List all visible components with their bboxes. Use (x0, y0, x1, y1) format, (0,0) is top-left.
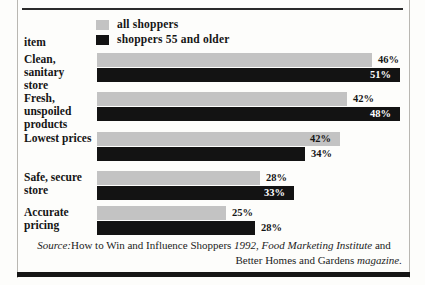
bar-group-label-line-1: Accurate (24, 206, 98, 219)
legend-label-all-shoppers: all shoppers (117, 17, 179, 32)
bar-value-label: 28% (266, 171, 287, 185)
legend-item-seniors: shoppers 55 and older (96, 32, 230, 47)
bar-value-label: 33% (264, 186, 285, 200)
bar-group-label-line-2: store (24, 184, 98, 197)
bar-value-label: 28% (261, 221, 282, 235)
bar-group-label-line-1: Safe, secure (24, 171, 98, 184)
bar-group-label-line-1: Fresh, unspoiled (24, 92, 98, 118)
bar-value-label: 42% (353, 92, 374, 106)
bar-group-label-line-2: pricing (24, 219, 98, 232)
frame-right-border (409, 0, 410, 278)
source-prefix: Source: (37, 239, 71, 251)
axis-heading-item: item (24, 36, 46, 48)
bar-seniors (97, 147, 305, 161)
bar-group-label-line-1: Clean, sanitary (24, 53, 98, 79)
bar-all-shoppers (97, 92, 347, 106)
bar-value-label: 48% (370, 107, 391, 121)
bar-seniors (97, 221, 255, 235)
bar-group-label: Clean, sanitarystore (24, 53, 98, 92)
bar-seniors (97, 107, 400, 121)
bar-all-shoppers (97, 171, 260, 185)
bar-value-label: 42% (310, 132, 331, 146)
bar-all-shoppers (97, 53, 372, 67)
source-note: Source:How to Win and Influence Shoppers… (26, 238, 402, 268)
bar-value-label: 34% (311, 147, 332, 161)
bar-group-label: Lowest prices (24, 132, 98, 145)
frame-bottom-rule (17, 272, 410, 277)
bar-chart-figure: all shoppers shoppers 55 and older item … (0, 0, 425, 285)
legend-swatch-all-shoppers (96, 20, 109, 30)
bar-seniors (97, 68, 400, 82)
source-line2-roman: Better Homes and Gardens (236, 254, 358, 266)
legend-item-all-shoppers: all shoppers (96, 17, 230, 32)
source-line1-roman-b: and (375, 239, 391, 251)
source-note-line-1: Source:How to Win and Influence Shoppers… (26, 238, 402, 253)
frame-top-rule (22, 8, 403, 10)
source-line1-roman-a: How to Win and Influence Shoppers (71, 239, 234, 251)
source-note-line-2: Better Homes and Gardens magazine. (26, 253, 402, 268)
legend-label-seniors: shoppers 55 and older (117, 32, 230, 47)
bar-value-label: 25% (232, 206, 253, 220)
bar-group-label-line-2: store (24, 79, 98, 92)
bar-value-label: 51% (370, 68, 391, 82)
bar-group-label-line-2: products (24, 118, 98, 131)
source-line1-italic-a: 1992, Food Marketing Institute (234, 239, 375, 251)
bar-group-label: Accuratepricing (24, 206, 98, 232)
frame-left-border (17, 0, 18, 278)
chart-legend: all shoppers shoppers 55 and older (96, 17, 230, 47)
bar-group-label: Fresh, unspoiledproducts (24, 92, 98, 131)
bar-all-shoppers (97, 132, 340, 146)
bar-value-label: 46% (378, 53, 399, 67)
bar-group-label: Safe, securestore (24, 171, 98, 197)
bar-all-shoppers (97, 206, 226, 220)
bar-group-label-line-1: Lowest prices (24, 132, 98, 145)
source-line2-italic: magazine. (357, 254, 402, 266)
legend-swatch-seniors (96, 35, 109, 45)
